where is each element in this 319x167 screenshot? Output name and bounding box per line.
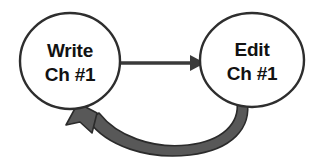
write-node[interactable]: Write Ch #1 (20, 13, 120, 109)
curved-arrow-band (88, 100, 248, 156)
edit-node-circle[interactable] (200, 13, 304, 107)
edit-node-label-line2: Ch #1 (227, 63, 278, 84)
curved-arrow-edit-to-write (66, 100, 248, 156)
write-node-label-line2: Ch #1 (45, 64, 96, 85)
write-node-label-line1: Write (47, 40, 93, 61)
edit-node[interactable]: Edit Ch #1 (200, 13, 304, 107)
diagram-svg: Write Ch #1 Edit Ch #1 (0, 0, 319, 167)
arrow-write-to-edit (120, 55, 205, 71)
edit-node-label-line1: Edit (234, 39, 270, 60)
diagram-canvas: Write Ch #1 Edit Ch #1 (0, 0, 319, 167)
write-node-circle[interactable] (20, 13, 120, 109)
